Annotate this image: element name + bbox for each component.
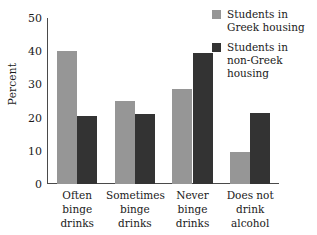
x-axis-tick-label: Neverbingedrinks bbox=[164, 188, 222, 230]
y-axis-tick-label: 30 bbox=[12, 79, 42, 90]
x-axis-tick-label-line: drink bbox=[221, 202, 279, 216]
x-axis-tick-labels: OftenbingedrinksSometimesbingedrinksNeve… bbox=[47, 188, 279, 233]
x-axis-tick-label-line: binge bbox=[164, 202, 222, 216]
x-axis-tick-label-line: Does not bbox=[221, 188, 279, 202]
bar bbox=[135, 114, 155, 184]
x-axis-tick-label-line: Sometimes bbox=[106, 188, 164, 202]
y-axis-tick-label: 50 bbox=[12, 13, 42, 24]
bar bbox=[172, 89, 192, 184]
legend-swatch-icon bbox=[212, 10, 221, 19]
y-axis-tick-label: 0 bbox=[12, 179, 42, 190]
x-axis-tick-label: Oftenbingedrinks bbox=[48, 188, 106, 230]
x-axis-tick-label-line: alcohol bbox=[221, 216, 279, 230]
legend-label-line: Students in bbox=[227, 41, 288, 54]
legend-label: Students inGreek housing bbox=[227, 8, 305, 34]
bar-group bbox=[172, 18, 213, 184]
y-axis-tick-label: 20 bbox=[12, 112, 42, 123]
legend-label-line: Greek housing bbox=[227, 21, 305, 34]
bar bbox=[250, 113, 270, 184]
legend-label: Students innon-Greekhousing bbox=[227, 41, 288, 80]
chart-legend: Students inGreek housingStudents innon-G… bbox=[212, 8, 317, 87]
x-axis-tick-label-line: Never bbox=[164, 188, 222, 202]
x-axis-tick-label-line: drinks bbox=[164, 216, 222, 230]
bar-group bbox=[57, 18, 98, 184]
legend-label-line: housing bbox=[227, 67, 288, 80]
bar-group bbox=[115, 18, 156, 184]
x-axis-tick-label: Sometimesbingedrinks bbox=[106, 188, 164, 230]
x-axis-tick-label-line: drinks bbox=[48, 216, 106, 230]
x-axis-tick-label-line: binge bbox=[48, 202, 106, 216]
bar-chart: Percent 01020304050 OftenbingedrinksSome… bbox=[0, 0, 317, 235]
bar bbox=[77, 116, 97, 184]
legend-entry[interactable]: Students innon-Greekhousing bbox=[212, 41, 317, 80]
bar bbox=[230, 152, 250, 184]
legend-entry[interactable]: Students inGreek housing bbox=[212, 8, 317, 34]
legend-label-line: Students in bbox=[227, 8, 305, 21]
x-axis-tick-label-line: Often bbox=[48, 188, 106, 202]
x-axis-tick-label: Does notdrinkalcohol bbox=[221, 188, 279, 230]
bar bbox=[115, 101, 135, 184]
legend-swatch-icon bbox=[212, 43, 221, 52]
y-axis-tick-label: 40 bbox=[12, 46, 42, 57]
x-axis-tick-label-line: binge bbox=[106, 202, 164, 216]
bar bbox=[57, 51, 77, 184]
y-axis-tick-label: 10 bbox=[12, 145, 42, 156]
bar bbox=[193, 53, 213, 184]
legend-label-line: non-Greek bbox=[227, 54, 288, 67]
x-axis-tick-label-line: drinks bbox=[106, 216, 164, 230]
